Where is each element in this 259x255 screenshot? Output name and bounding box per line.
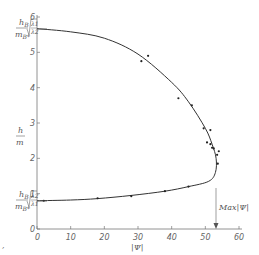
x-tick-label: 60 [234,233,244,242]
data-point [209,143,211,145]
x-tick-label: 0 [35,233,40,242]
x-tick-label: 50 [200,233,210,242]
x-tick-label: 10 [66,233,76,242]
svg-text:h: h [18,126,23,135]
data-point [213,147,215,149]
bottom-intercept-label: hB mB* λ2 λ1 [15,190,39,212]
x-tick-label: 40 [167,233,177,242]
data-point [187,186,189,188]
y-tick-label: 4 [30,84,35,93]
data-point [97,197,99,199]
max-psi-arrow-icon [214,223,219,229]
x-axis-label: |Ψ| [131,243,143,252]
x-ticks: 0102030405060 [35,226,244,242]
corner-mark: , [2,241,5,250]
data-point [216,154,218,156]
y-tick-label: 5 [30,48,35,57]
data-point [217,163,219,165]
svg-text:λ1: λ1 [30,200,39,207]
data-point [130,195,132,197]
data-point [209,129,211,131]
data-point [177,97,179,99]
data-points [43,55,220,202]
data-point [140,60,142,62]
data-point [206,141,208,143]
max-psi-label: Max|Ψ| [218,203,249,212]
x-tick-label: 30 [133,233,143,242]
axes [37,15,242,229]
data-point [203,127,205,129]
fitted-curve [37,29,216,201]
data-point [164,190,166,192]
svg-text:λ2: λ2 [30,28,39,35]
svg-text:λ2: λ2 [30,192,39,199]
y-tick-label: 2 [30,154,35,163]
chart: 0123456 0102030405060 Max|Ψ| h m hB mB* … [0,0,259,255]
y-axis-label: h m [16,126,25,147]
y-tick-label: 3 [30,119,35,128]
svg-text:hB: hB [19,18,29,28]
data-point [147,55,149,57]
data-point [218,150,220,152]
x-tick-label: 20 [99,233,109,242]
top-intercept-label: hB mB* λ1 λ2 [15,18,39,40]
svg-text:m: m [16,138,24,147]
data-point [191,104,193,106]
svg-text:λ1: λ1 [30,20,39,27]
svg-text:hB: hB [19,190,29,200]
